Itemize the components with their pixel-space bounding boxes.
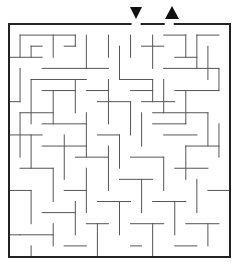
- maze-walls: [9, 35, 230, 257]
- exit-arrow-icon: [165, 6, 179, 19]
- entrance-arrow-icon: [130, 7, 142, 19]
- maze-board: [0, 0, 240, 266]
